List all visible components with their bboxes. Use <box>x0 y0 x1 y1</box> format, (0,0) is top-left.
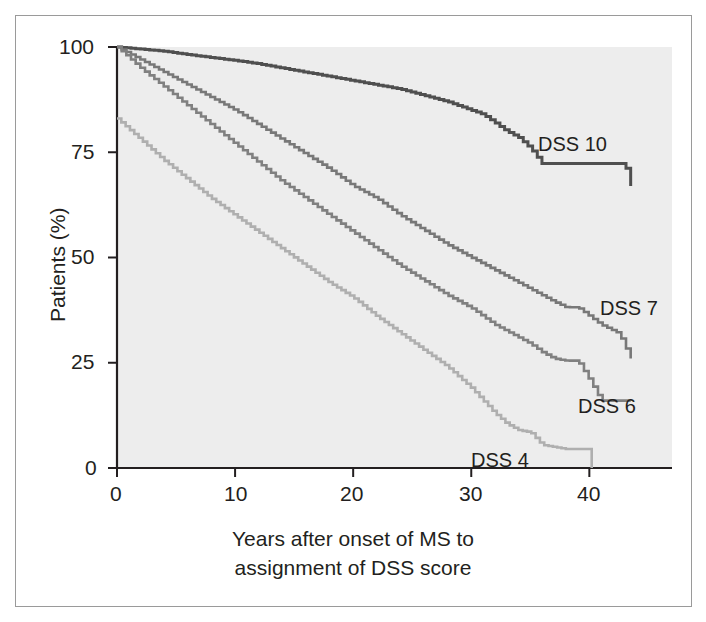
x-tick-label-40: 40 <box>577 482 600 506</box>
y-tick-label-50: 50 <box>71 245 94 269</box>
y-tick-label-100: 100 <box>59 35 94 59</box>
x-tick-label-20: 20 <box>340 482 363 506</box>
y-tick-label-0: 0 <box>85 456 97 480</box>
x-tick-label-0: 0 <box>110 482 122 506</box>
y-axis-title: Patients (%) <box>46 208 70 322</box>
series-label-dss-10: DSS 10 <box>538 133 607 156</box>
x-tick-label-30: 30 <box>459 482 482 506</box>
series-label-dss-7: DSS 7 <box>600 297 658 320</box>
x-axis-title-line1: Years after onset of MS to <box>0 524 706 553</box>
series-label-dss-6: DSS 6 <box>578 395 636 418</box>
figure-container: 100 75 50 25 0 0 10 20 30 40 Patients (%… <box>0 0 706 622</box>
series-label-dss-4: DSS 4 <box>471 449 529 472</box>
x-axis-title-line2: assignment of DSS score <box>0 553 706 582</box>
y-tick-label-25: 25 <box>71 350 94 374</box>
y-tick-label-75: 75 <box>71 140 94 164</box>
x-tick-label-10: 10 <box>224 482 247 506</box>
